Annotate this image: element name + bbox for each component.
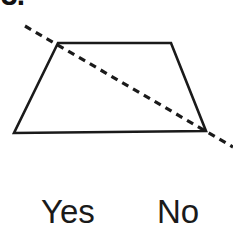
figure-canvas bbox=[0, 0, 233, 175]
answer-option-no[interactable]: No bbox=[157, 193, 199, 231]
worksheet-page: 3. Yes No bbox=[0, 0, 233, 231]
geometry-figure bbox=[0, 0, 233, 175]
answer-options: Yes No bbox=[0, 193, 233, 231]
trapezoid-shape bbox=[14, 43, 206, 133]
answer-option-yes[interactable]: Yes bbox=[41, 193, 95, 231]
